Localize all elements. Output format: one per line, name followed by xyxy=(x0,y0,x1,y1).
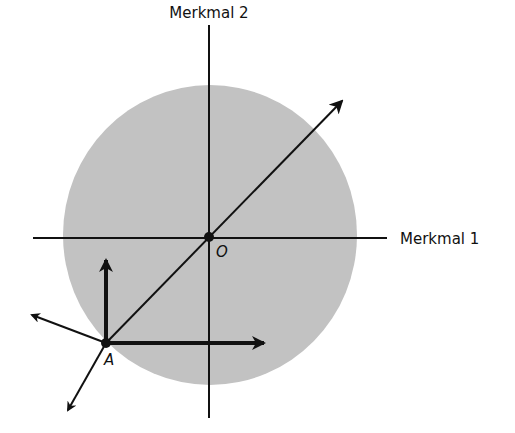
point-a-label: A xyxy=(103,351,114,369)
origin-label: O xyxy=(216,243,228,261)
x-axis-label: Merkmal 1 xyxy=(400,230,479,248)
arrow-downleft-from-a xyxy=(68,343,106,410)
feature-space-diagram: Merkmal 2 Merkmal 1 O A xyxy=(0,0,515,433)
y-axis-label: Merkmal 2 xyxy=(169,4,248,22)
point-a xyxy=(101,338,111,348)
origin-point xyxy=(204,232,214,242)
